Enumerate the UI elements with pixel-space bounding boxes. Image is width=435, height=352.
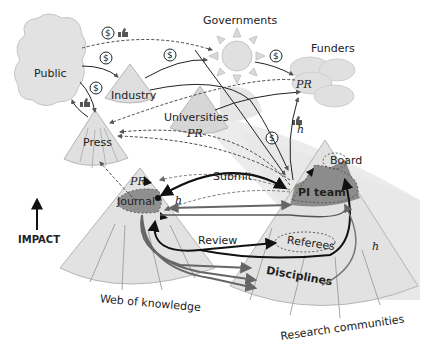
funders-label: Funders <box>311 42 355 55</box>
svg-text:$: $ <box>167 50 173 60</box>
submit-label: Submit <box>213 170 253 183</box>
web-of-knowledge-cone: Journal PR Web of knowledge <box>60 168 215 314</box>
thumbs-up-icon <box>80 98 90 107</box>
research-ecosystem-diagram: Public Industry Governments Funders PR <box>0 0 435 352</box>
universities-label: Universities <box>164 111 229 124</box>
impact-label: IMPACT <box>18 234 60 245</box>
impact-axis: IMPACT <box>18 200 60 245</box>
press-label: Press <box>83 136 112 149</box>
svg-text:$: $ <box>273 51 279 61</box>
industry-label: Industry <box>111 89 157 102</box>
web-of-knowledge-label: Web of knowledge <box>99 292 201 314</box>
money-icon: $ <box>90 82 102 94</box>
funders-cloud: Funders PR <box>290 42 355 107</box>
money-icon: $ <box>164 49 176 61</box>
thumbs-up-icon <box>118 28 128 37</box>
governments-sun: Governments <box>203 14 278 84</box>
svg-text:$: $ <box>103 53 109 63</box>
review-label: Review <box>198 234 237 247</box>
h-index-label-1: h <box>175 194 182 207</box>
governments-label: Governments <box>203 14 278 27</box>
journal-pr-label: PR <box>129 175 146 188</box>
journal-dot <box>155 195 161 201</box>
research-communities-label: Research communities <box>280 313 406 343</box>
funders-pr-label: PR <box>295 78 312 91</box>
h-index-label-3: h <box>372 240 379 253</box>
money-icon: $ <box>270 50 282 62</box>
public-label: Public <box>34 67 67 80</box>
board-label: Board <box>330 154 362 167</box>
industry-cone: Industry <box>105 64 157 103</box>
press-cone: Press <box>64 110 128 168</box>
money-icon: $ <box>102 27 114 39</box>
svg-text:$: $ <box>93 83 99 93</box>
pi-team-label: PI team <box>298 186 346 199</box>
svg-text:$: $ <box>105 28 111 38</box>
h-index-label-2: h <box>297 123 304 136</box>
public-cloud: Public <box>14 14 86 106</box>
journal-label: Journal <box>116 195 155 208</box>
money-icon: $ <box>100 52 112 64</box>
